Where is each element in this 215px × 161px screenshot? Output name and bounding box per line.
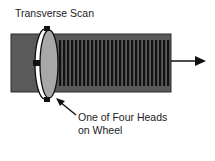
head-caption: One of Four Heads on Wheel xyxy=(78,111,167,137)
head-top-icon xyxy=(44,26,50,31)
track xyxy=(155,40,157,86)
track xyxy=(135,40,137,86)
track xyxy=(63,40,65,86)
track xyxy=(151,40,153,86)
track xyxy=(159,40,161,86)
track xyxy=(83,40,85,86)
track xyxy=(107,40,109,86)
track xyxy=(123,40,125,86)
track xyxy=(91,40,93,86)
pointer-arrow-icon xyxy=(56,98,76,115)
caption-line-1: One of Four Heads xyxy=(78,111,167,124)
track xyxy=(87,40,89,86)
track xyxy=(163,40,165,86)
track xyxy=(95,40,97,86)
track xyxy=(59,40,61,86)
track xyxy=(79,40,81,86)
track xyxy=(103,40,105,86)
head-bottom-icon xyxy=(44,97,50,102)
track xyxy=(111,40,113,86)
track xyxy=(71,40,73,86)
track xyxy=(131,40,133,86)
caption-line-2: on Wheel xyxy=(78,124,167,137)
track xyxy=(99,40,101,86)
track xyxy=(147,40,149,86)
track xyxy=(143,40,145,86)
track xyxy=(67,40,69,86)
track xyxy=(127,40,129,86)
track xyxy=(75,40,77,86)
tape-direction-arrow-icon xyxy=(171,56,206,66)
track xyxy=(115,40,117,86)
track xyxy=(167,40,169,86)
head-left-icon xyxy=(33,60,40,66)
track xyxy=(119,40,121,86)
track xyxy=(139,40,141,86)
